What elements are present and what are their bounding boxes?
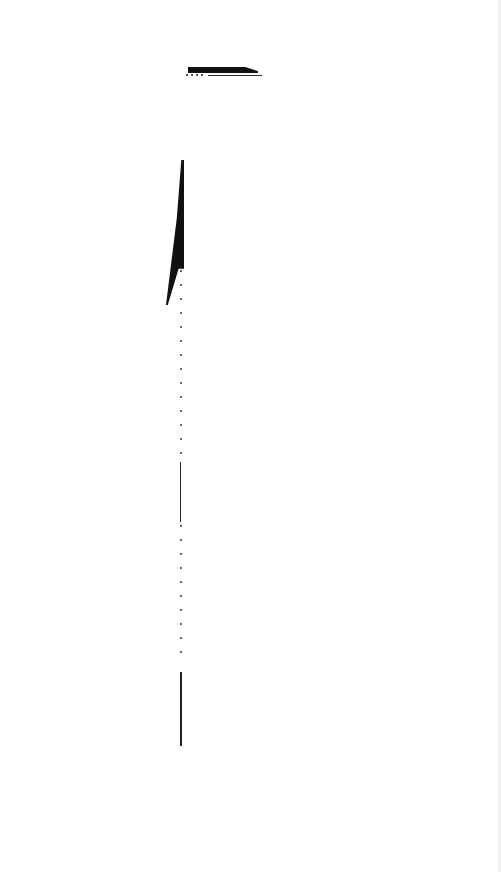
header-rule bbox=[208, 75, 262, 76]
vertical-rule-bottom bbox=[180, 672, 182, 746]
header-bar bbox=[188, 67, 258, 73]
vertical-dotted-line-lower bbox=[180, 525, 182, 665]
vertical-rule-segment bbox=[180, 462, 181, 522]
vertical-dotted-line bbox=[180, 270, 182, 460]
header-dots bbox=[186, 74, 204, 76]
